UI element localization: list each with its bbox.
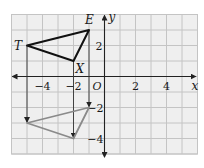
origin-label: O (93, 80, 102, 93)
vertex-label-e: E (84, 13, 94, 27)
vertex-label-x: X (75, 62, 85, 76)
coordinate-plane: xyO−4−2242−2−4TEX (0, 0, 204, 168)
x-tick-label: 4 (163, 80, 170, 93)
x-tick-label: −4 (34, 80, 50, 93)
y-axis-label: y (108, 10, 116, 24)
x-tick-label: 2 (132, 80, 139, 93)
coordinate-plane-figure: xyO−4−2242−2−4TEX (0, 0, 204, 168)
y-tick-label: −4 (87, 133, 103, 146)
vertex-label-t: T (14, 39, 23, 53)
y-tick-label: 2 (96, 40, 103, 53)
x-axis-label: x (192, 79, 199, 93)
